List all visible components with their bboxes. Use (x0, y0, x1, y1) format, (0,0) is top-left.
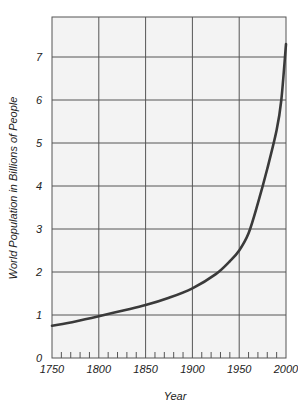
y-tick-label: 7 (36, 51, 43, 63)
y-tick-label: 4 (36, 180, 42, 192)
x-tick-label: 1750 (40, 363, 65, 375)
x-axis-title: Year (164, 390, 188, 402)
x-tick-label: 1850 (133, 363, 158, 375)
y-tick-label: 1 (36, 309, 42, 321)
y-tick-label: 2 (35, 266, 42, 278)
y-tick-label: 3 (36, 223, 43, 235)
x-tick-label: 2000 (273, 363, 298, 375)
population-chart: 01234567 175018001850190019502000 World … (0, 0, 298, 403)
y-axis-title: World Population in Billions of People (7, 97, 19, 280)
x-tick-label: 1950 (227, 363, 252, 375)
x-tick-label: 1800 (87, 363, 112, 375)
x-tick-labels: 175018001850190019502000 (40, 363, 298, 375)
x-tick-label: 1900 (180, 363, 205, 375)
y-tick-labels: 01234567 (35, 51, 43, 364)
y-tick-label: 6 (36, 94, 43, 106)
y-tick-label: 5 (36, 137, 43, 149)
plot-area (52, 17, 286, 358)
